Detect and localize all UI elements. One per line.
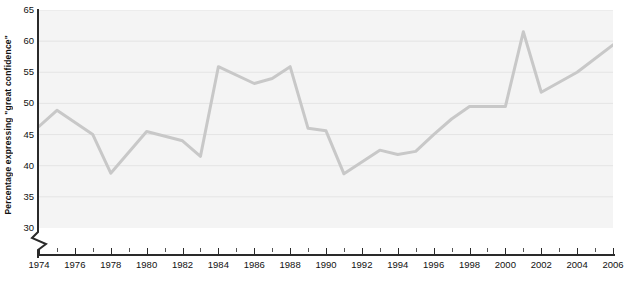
x-axis-tick-label: 1978 xyxy=(91,259,131,270)
y-axis-tick-label: 55 xyxy=(8,67,34,76)
x-axis-major-tick xyxy=(541,248,542,255)
x-axis-tick-label: 1992 xyxy=(342,259,382,270)
x-axis-minor-tick xyxy=(452,248,453,252)
y-axis-tick-label: 60 xyxy=(8,36,34,45)
series-group xyxy=(39,32,613,174)
x-axis-minor-tick xyxy=(236,248,237,252)
x-axis-tick-labels: 1974197619781980198219841986198819901992… xyxy=(0,259,630,277)
y-axis-tick-labels: 3035404550556065 xyxy=(8,0,34,249)
x-axis-major-tick xyxy=(577,248,578,255)
x-axis-minor-tick xyxy=(308,248,309,252)
x-axis-major-tick xyxy=(470,248,471,255)
x-axis-tick-label: 2002 xyxy=(521,259,561,270)
x-axis-major-tick xyxy=(254,248,255,255)
x-axis-major-tick xyxy=(75,248,76,255)
x-axis-tick-label: 2006 xyxy=(593,259,630,270)
y-axis-tick-label: 50 xyxy=(8,98,34,107)
plot-area xyxy=(39,10,613,228)
x-axis-minor-tick xyxy=(165,248,166,252)
x-axis-major-tick xyxy=(111,248,112,255)
y-axis-tick-label: 65 xyxy=(8,5,34,14)
y-axis-line xyxy=(37,9,39,229)
x-axis-major-tick xyxy=(183,248,184,255)
x-axis-major-tick xyxy=(434,248,435,255)
x-axis-major-tick xyxy=(362,248,363,255)
x-axis-tick-label: 1980 xyxy=(127,259,167,270)
x-axis-major-tick xyxy=(290,248,291,255)
chart-container: Percentage expressing "great confidence"… xyxy=(0,0,630,281)
x-axis-minor-tick xyxy=(559,248,560,252)
x-axis-minor-tick xyxy=(487,248,488,252)
gridlines xyxy=(39,10,613,197)
x-axis-major-tick xyxy=(505,248,506,255)
x-axis-ticks xyxy=(39,248,617,256)
x-axis-minor-tick xyxy=(595,248,596,252)
x-axis-minor-tick xyxy=(93,248,94,252)
x-axis-tick-label: 1994 xyxy=(378,259,418,270)
y-axis-tick-label: 35 xyxy=(8,192,34,201)
x-axis-minor-tick xyxy=(523,248,524,252)
x-axis-minor-tick xyxy=(272,248,273,252)
x-axis-minor-tick xyxy=(200,248,201,252)
plot-svg xyxy=(39,10,613,228)
x-axis-minor-tick xyxy=(344,248,345,252)
x-axis-tick-label: 1984 xyxy=(198,259,238,270)
x-axis-minor-tick xyxy=(380,248,381,252)
x-axis-major-tick xyxy=(326,248,327,255)
x-axis-tick-label: 1986 xyxy=(234,259,274,270)
y-axis-tick-label: 40 xyxy=(8,161,34,170)
x-axis-tick-label: 1988 xyxy=(270,259,310,270)
x-axis-major-tick xyxy=(398,248,399,255)
x-axis-major-tick xyxy=(39,248,40,255)
series-line xyxy=(39,32,613,174)
x-axis-major-tick xyxy=(613,248,614,255)
x-axis-tick-label: 2004 xyxy=(557,259,597,270)
x-axis-tick-label: 1982 xyxy=(163,259,203,270)
x-axis-tick-label: 1990 xyxy=(306,259,346,270)
x-axis-tick-label: 1974 xyxy=(19,259,59,270)
x-axis-tick-label: 1998 xyxy=(450,259,490,270)
x-axis-major-tick xyxy=(218,248,219,255)
x-axis-tick-label: 1976 xyxy=(55,259,95,270)
x-axis-minor-tick xyxy=(416,248,417,252)
x-axis-tick-label: 1996 xyxy=(414,259,454,270)
x-axis-minor-tick xyxy=(57,248,58,252)
x-axis-major-tick xyxy=(147,248,148,255)
y-axis-tick-label: 45 xyxy=(8,130,34,139)
x-axis-minor-tick xyxy=(129,248,130,252)
x-axis-tick-label: 2000 xyxy=(485,259,525,270)
